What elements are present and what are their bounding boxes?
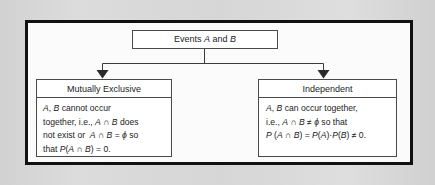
connector-lines (97, 49, 330, 79)
card-line: that P(A ∩ B) = 0. (43, 143, 166, 157)
right-arrowhead-icon (318, 70, 330, 79)
root-var-b: B (230, 34, 236, 44)
branch-card-independent: Independent A, B can occur together, i.e… (258, 79, 397, 157)
left-arrowhead-icon (97, 70, 109, 79)
card-header-label: Independent (302, 84, 352, 94)
card-header-label: Mutually Exclusive (67, 84, 141, 94)
card-body-independent: A, B can occur together, i.e., A ∩ B ≠ ϕ… (259, 98, 396, 143)
root-node-label: Events A and B (133, 31, 277, 48)
card-line: A, B can occur together, (266, 102, 391, 116)
card-line: A, B cannot occur (43, 102, 166, 116)
card-line: together, i.e., A ∩ B does (43, 116, 166, 130)
root-var-a: A (204, 34, 210, 44)
card-line: P (A ∩ B) = P(A)·P(B) ≠ 0. (266, 129, 391, 143)
root-node-events: Events A and B (132, 30, 278, 49)
card-line: not exist or A ∩ B = ϕ so (43, 129, 166, 143)
branch-card-mutually-exclusive: Mutually Exclusive A, B cannot occur tog… (36, 79, 172, 157)
card-header-mutually-exclusive: Mutually Exclusive (37, 80, 171, 98)
card-body-mutually-exclusive: A, B cannot occur together, i.e., A ∩ B … (37, 98, 171, 156)
card-header-independent: Independent (259, 80, 396, 98)
figure-screenshot: Events A and B Mutually Exclusive A, B c… (0, 0, 435, 185)
card-line: i.e., A ∩ B ≠ ϕ so that (266, 116, 391, 130)
